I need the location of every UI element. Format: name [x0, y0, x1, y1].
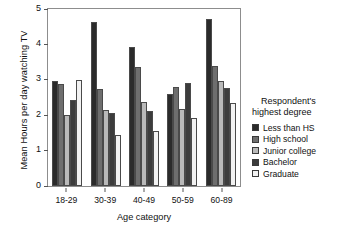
x-axis-tick-mark: [221, 188, 222, 192]
legend-item[interactable]: Less than HS: [252, 122, 341, 134]
y-axis-tick-label: 5: [36, 3, 41, 13]
y-axis-tick-label: 4: [36, 38, 41, 48]
bar-groups: [48, 9, 240, 186]
y-axis-tick-label: 0: [36, 180, 41, 190]
bar-group: [129, 9, 159, 186]
x-axis-tick: 30-39: [86, 188, 125, 210]
legend-title: Respondent's highest degree: [252, 96, 341, 119]
legend-item-label: Less than HS: [263, 123, 315, 133]
x-axis-tick: 50-59: [163, 188, 202, 210]
y-axis-tick-label: 3: [36, 73, 41, 83]
legend-item[interactable]: Bachelor: [252, 157, 341, 169]
legend-swatch: [252, 170, 259, 177]
bar: [115, 135, 121, 186]
bar: [153, 131, 159, 186]
bar-group: [91, 9, 121, 186]
x-axis-title: Age category: [47, 212, 241, 222]
legend-item-label: Bachelor: [263, 157, 297, 167]
x-axis-ticks: 18-2930-3940-4950-5960-89: [47, 188, 241, 210]
legend-item[interactable]: Junior college: [252, 145, 341, 157]
legend-swatch: [252, 147, 259, 154]
legend-item-label: Junior college: [263, 146, 316, 156]
bar-group: [52, 9, 82, 186]
y-axis-tick-label: 1: [36, 144, 41, 154]
legend-swatch: [252, 124, 259, 131]
legend-title-line-2: highest degree: [252, 107, 341, 118]
bar: [230, 103, 236, 186]
x-axis-tick: 60-89: [202, 188, 241, 210]
plot-inner: 012345: [48, 9, 240, 186]
legend-item-label: High school: [263, 134, 308, 144]
legend-swatch: [252, 136, 259, 143]
bar: [191, 118, 197, 186]
plot-area: 012345: [47, 8, 241, 187]
bar: [76, 80, 82, 186]
legend-items: Less than HSHigh schoolJunior collegeBac…: [252, 122, 341, 180]
legend: Respondent's highest degree Less than HS…: [252, 96, 341, 180]
x-axis-tick-mark: [66, 188, 67, 192]
x-axis-tick-mark: [143, 188, 144, 192]
x-axis-tick-label: 30-39: [86, 195, 125, 205]
legend-item[interactable]: High school: [252, 133, 341, 145]
x-axis-tick-mark: [105, 188, 106, 192]
x-axis-tick-label: 40-49: [125, 195, 164, 205]
x-axis-tick-mark: [182, 188, 183, 192]
bar-group: [206, 9, 236, 186]
legend-item-label: Graduate: [263, 169, 299, 179]
y-axis-tick-label: 2: [36, 109, 41, 119]
legend-item[interactable]: Graduate: [252, 168, 341, 180]
x-axis-tick-label: 50-59: [163, 195, 202, 205]
y-axis-title: Mean Hours per day watching TV: [19, 15, 29, 185]
x-axis-tick-label: 18-29: [47, 195, 86, 205]
legend-swatch: [252, 159, 259, 166]
x-axis-tick: 18-29: [47, 188, 86, 210]
legend-title-line-1: Respondent's: [252, 96, 341, 107]
x-axis-tick-label: 60-89: [202, 195, 241, 205]
bar-group: [167, 9, 197, 186]
bar-chart-figure: Mean Hours per day watching TV 012345 18…: [0, 0, 341, 232]
x-axis-tick: 40-49: [125, 188, 164, 210]
